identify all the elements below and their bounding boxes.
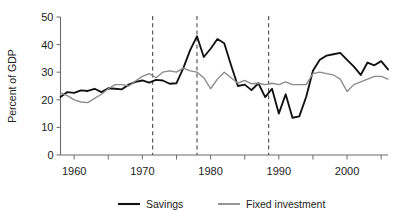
y-tick-label: 0 [47,149,53,161]
y-axis: 01020304050 [41,11,60,161]
x-tick-label: 1990 [267,165,291,177]
x-tick-label: 2000 [335,165,359,177]
y-tick-label: 50 [41,11,53,23]
y-tick-label: 10 [41,121,53,133]
y-tick-label: 20 [41,94,53,106]
event-vertical-lines [153,16,269,155]
chart-figure: 01020304050 19601970198019902000 Percent… [0,0,400,221]
y-tick-label: 30 [41,66,53,78]
x-tick-label: 1960 [62,165,86,177]
x-tick-label: 1980 [198,165,222,177]
y-axis-title: Percent of GDP [6,49,18,123]
x-tick-label: 1970 [130,165,154,177]
y-tick-label: 40 [41,39,53,51]
legend-label-savings: Savings [146,198,183,210]
series-line-savings [61,36,389,117]
series-line-fixed-investment [61,68,389,103]
y-axis-title-text: Percent of GDP [6,49,18,123]
data-series [61,36,389,117]
chart-legend: SavingsFixed investment [118,198,325,210]
legend-label-fixed-investment: Fixed investment [246,198,325,210]
x-axis: 19601970198019902000 [61,155,389,177]
